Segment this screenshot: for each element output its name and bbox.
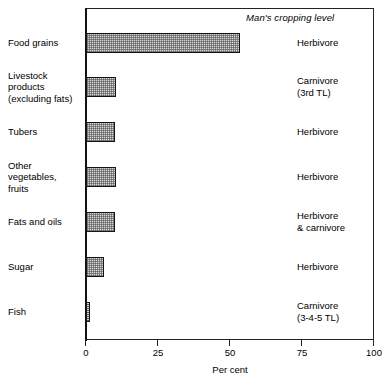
bar <box>86 167 116 187</box>
cropping-level-label: Carnivore(3rd TL) <box>297 75 389 100</box>
chart-row: Food grainsHerbivore <box>0 30 390 74</box>
category-label-line: Fats and oils <box>8 216 82 228</box>
cropping-level-line: Herbivore <box>297 171 389 184</box>
cropping-level-line: (3rd TL) <box>297 87 389 100</box>
x-axis-tick <box>229 340 230 346</box>
chart-row: Livestockproducts(excluding fats)Carnivo… <box>0 74 390 118</box>
cropping-level-line: Herbivore <box>297 210 389 223</box>
category-label-line: vegetables, <box>8 171 82 183</box>
cropping-level-header: Man's cropping level <box>246 12 334 23</box>
category-label: Food grains <box>8 37 82 49</box>
chart-row: Othervegetables,fruitsHerbivore <box>0 164 390 208</box>
category-label-line: Sugar <box>8 261 82 273</box>
category-label: Fish <box>8 306 82 318</box>
category-label: Sugar <box>8 261 82 273</box>
cropping-level-line: Carnivore <box>297 75 389 88</box>
bar <box>86 77 116 97</box>
cropping-level-line: Herbivore <box>297 126 389 139</box>
cropping-level-label: Carnivore(3-4-5 TL) <box>297 300 389 325</box>
chart-row: TubersHerbivore <box>0 119 390 163</box>
x-axis-tick-label: 100 <box>354 347 390 358</box>
x-axis-tick-label: 0 <box>66 347 106 358</box>
category-label-line: Food grains <box>8 37 82 49</box>
cropping-level-line: & carnivore <box>297 222 389 235</box>
category-label-line: fruits <box>8 183 82 195</box>
category-label: Othervegetables,fruits <box>8 160 82 195</box>
bar <box>86 257 104 277</box>
bar <box>86 122 115 142</box>
chart-row: SugarHerbivore <box>0 254 390 298</box>
cropping-level-label: Herbivore <box>297 37 389 50</box>
cropping-level-line: Carnivore <box>297 300 389 313</box>
bar <box>86 212 115 232</box>
x-axis-tick <box>157 340 158 346</box>
category-label: Livestockproducts(excluding fats) <box>8 70 82 105</box>
category-label-line: Livestock <box>8 70 82 82</box>
x-axis-tick-label: 25 <box>138 347 178 358</box>
category-label-line: (excluding fats) <box>8 93 82 105</box>
cropping-level-line: Herbivore <box>297 37 389 50</box>
bar <box>86 302 90 322</box>
chart-row: Fats and oilsHerbivore& carnivore <box>0 209 390 253</box>
horizontal-bar-chart: Man's cropping level Food grainsHerbivor… <box>0 0 390 381</box>
x-axis-tick <box>301 340 302 346</box>
category-label-line: Other <box>8 160 82 172</box>
cropping-level-label: Herbivore <box>297 261 389 274</box>
chart-row: FishCarnivore(3-4-5 TL) <box>0 299 390 343</box>
category-label-line: Fish <box>8 306 82 318</box>
x-axis-tick-label: 50 <box>210 347 250 358</box>
x-axis-tick <box>85 340 86 346</box>
cropping-level-label: Herbivore <box>297 171 389 184</box>
category-label-line: Tubers <box>8 126 82 138</box>
category-label: Tubers <box>8 126 82 138</box>
x-axis-tick-label: 75 <box>282 347 322 358</box>
x-axis-title: Per cent <box>0 364 390 375</box>
cropping-level-label: Herbivore& carnivore <box>297 210 389 235</box>
x-axis-tick <box>373 340 374 346</box>
category-label: Fats and oils <box>8 216 82 228</box>
bar <box>86 33 240 53</box>
category-label-line: products <box>8 81 82 93</box>
cropping-level-label: Herbivore <box>297 126 389 139</box>
cropping-level-line: (3-4-5 TL) <box>297 312 389 325</box>
cropping-level-line: Herbivore <box>297 261 389 274</box>
